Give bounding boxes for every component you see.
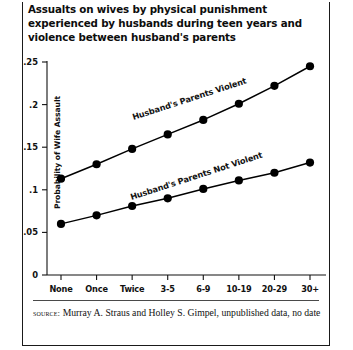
y-axis-tick-label: 0 xyxy=(12,270,38,280)
y-axis-tick-label: .2 xyxy=(12,100,38,110)
source-kicker: source: xyxy=(33,308,60,318)
source-divider xyxy=(33,300,319,301)
figure-title: Assualts on wives by physical punishment… xyxy=(28,2,320,45)
y-axis-tick-label: .1 xyxy=(12,185,38,195)
source-note: source: Murray A. Straus and Holley S. G… xyxy=(33,306,321,320)
line-chart-svg xyxy=(22,52,330,290)
source-text: Murray A. Straus and Holley S. Gimpel, u… xyxy=(60,307,320,318)
figure-panel: Assualts on wives by physical punishment… xyxy=(0,0,353,350)
y-axis-tick-label: .15 xyxy=(12,142,38,152)
figure-border-bottom xyxy=(22,345,330,346)
y-axis-tick-label: .05 xyxy=(12,227,38,237)
x-axis-tick-label: 30+ xyxy=(280,284,340,294)
y-axis-tick-label: .25 xyxy=(12,57,38,67)
chart-plot-area: Probability of Wife Assault 0.05.1.15.2.… xyxy=(22,52,330,290)
